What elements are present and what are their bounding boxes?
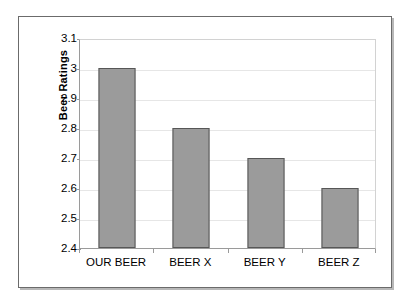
y-tick-label: 2.5 (41, 213, 77, 225)
bars-layer (80, 40, 375, 248)
y-tick-label: 2.4 (41, 243, 77, 255)
bar-slot (154, 40, 228, 248)
x-tick-label: BEER Y (228, 256, 302, 268)
y-tick-label: 3 (41, 63, 77, 75)
bar[interactable] (99, 68, 136, 248)
x-tick-mark (302, 249, 303, 253)
y-tick-label: 2.6 (41, 183, 77, 195)
x-tick-label: OUR BEER (79, 256, 153, 268)
bar[interactable] (173, 128, 210, 248)
plot-area (79, 39, 376, 249)
y-tick-label: 2.7 (41, 153, 77, 165)
bar[interactable] (247, 158, 284, 248)
y-tick-label: 2.8 (41, 123, 77, 135)
x-tick-label: BEER X (153, 256, 227, 268)
bar-slot (80, 40, 154, 248)
bar-slot (229, 40, 303, 248)
y-tick-label: 2.9 (41, 93, 77, 105)
bar-slot (303, 40, 377, 248)
x-axis-tick-marks (79, 249, 376, 254)
x-tick-mark (228, 249, 229, 253)
x-axis-tick-labels: OUR BEERBEER XBEER YBEER Z (79, 256, 376, 276)
x-tick-label: BEER Z (302, 256, 376, 268)
chart-frame: Beer Ratings 3.132.92.82.72.62.52.4 OUR … (18, 16, 392, 288)
x-tick-mark (375, 249, 376, 253)
x-tick-mark (153, 249, 154, 253)
x-tick-mark (79, 249, 80, 253)
y-tick-label: 3.1 (41, 33, 77, 45)
bar[interactable] (321, 188, 358, 248)
y-axis-tick-labels: 3.132.92.82.72.62.52.4 (41, 39, 77, 249)
